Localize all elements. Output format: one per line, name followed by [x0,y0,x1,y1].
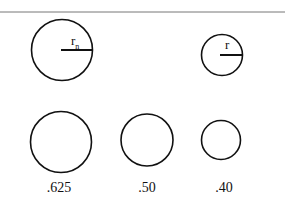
radius-rn-label: rn [71,33,79,51]
label-40: .40 [215,180,233,196]
diagram-canvas [0,0,295,205]
radius-r-label: r [225,37,229,53]
circle-40 [202,121,241,160]
label-50: .50 [138,180,156,196]
circle-625 [31,112,92,173]
circle-50 [121,114,173,166]
label-625: .625 [47,180,72,196]
